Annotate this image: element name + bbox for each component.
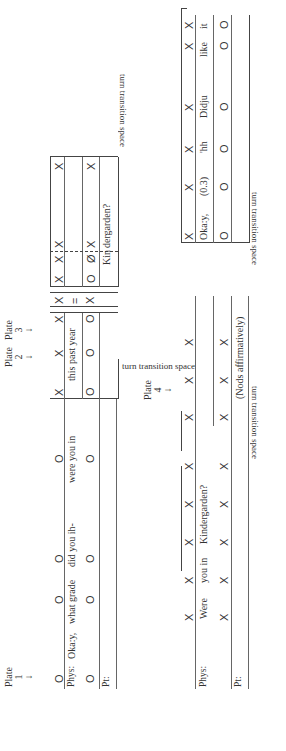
mark: O (85, 274, 97, 283)
speaker-phys: Phys: (66, 666, 76, 687)
bracket-right (50, 292, 118, 293)
bracket-left (50, 286, 118, 287)
mark: X (53, 241, 65, 248)
mark: X (218, 414, 230, 421)
mark: X (85, 241, 97, 248)
turn-transition-space-label: turn transition space (118, 74, 128, 147)
mark: O (218, 182, 230, 191)
utterance-word: Didju (198, 95, 209, 118)
line (64, 399, 65, 689)
utterance-word: Oka:y, (198, 214, 209, 240)
line (231, 296, 232, 426)
line (99, 157, 100, 287)
line (99, 355, 100, 399)
line (248, 296, 249, 426)
line (195, 421, 196, 689)
bracket-bottom (118, 157, 119, 287)
mark: O (84, 314, 96, 323)
utterance-word: Kindergarden? (198, 485, 209, 544)
bracket-left (50, 398, 118, 399)
utterance-word: you in (198, 558, 209, 583)
line (195, 296, 196, 426)
utterance-word: this past year (66, 328, 77, 381)
bracket-bottom (249, 15, 250, 243)
speaker-pt: Pt: (101, 676, 111, 687)
mark: X (218, 501, 230, 508)
mark: X (183, 577, 195, 584)
utterance-word: Were (198, 598, 209, 619)
bracket-right (50, 156, 118, 157)
line (99, 399, 100, 689)
mark: X (218, 614, 230, 621)
mark: O (84, 387, 96, 396)
equals-sign: = (69, 298, 81, 304)
mark: O (218, 231, 230, 240)
bracket-top (181, 466, 182, 571)
bracket-top (181, 411, 182, 451)
mark: X (183, 43, 195, 50)
utterance-word: Kin (101, 250, 112, 265)
line (99, 313, 100, 355)
bracket-left (50, 306, 118, 307)
line (82, 313, 83, 355)
mark: X (53, 163, 65, 170)
line (82, 157, 83, 287)
mark: X (183, 377, 195, 384)
bracket-top (50, 157, 51, 287)
mark: X (53, 256, 65, 263)
mark: X (183, 22, 195, 29)
mark: X (183, 233, 195, 240)
bracket-tick (181, 8, 187, 9)
mark: X (183, 104, 195, 111)
utterance-word: 'hh (198, 141, 209, 153)
line (213, 296, 214, 426)
utterance-word: (Nods affirmatively) (234, 317, 245, 399)
line (195, 15, 196, 243)
line (231, 421, 232, 689)
mark: X (85, 163, 97, 170)
mark: X (183, 501, 195, 508)
mark: O (84, 454, 96, 463)
line (116, 399, 117, 689)
utterance-word: what grade (66, 580, 77, 624)
utterance-word: Oka:y, (66, 633, 77, 659)
mark: O (218, 102, 230, 111)
line (248, 421, 249, 689)
plate-3-marker: Plate 3 ↓ (4, 320, 34, 340)
utterance-word: did you ih- (66, 523, 77, 567)
mark: X (183, 414, 195, 421)
speaker-pt: Pt: (233, 676, 243, 687)
mark: O (218, 41, 230, 50)
mark: X (218, 539, 230, 546)
plate-1-marker: Plate 1 ↓ (4, 667, 34, 687)
mark: X (183, 184, 195, 191)
mark: O (218, 144, 230, 153)
line (82, 355, 83, 399)
mark: X (183, 146, 195, 153)
mark: X (183, 614, 195, 621)
utterance-word: (0.3) (198, 177, 209, 196)
bracket-right (50, 312, 118, 313)
plate-2-marker: Plate 2 ↓ (4, 347, 34, 367)
mark: X (218, 463, 230, 470)
mark: X (218, 377, 230, 384)
utterance-word: were you in (66, 436, 77, 483)
line (64, 157, 65, 287)
mark: X (53, 297, 65, 304)
line (213, 15, 214, 243)
bracket-top (181, 8, 182, 243)
mark: X (53, 276, 65, 283)
turn-transition-space-label: turn transition space (250, 192, 260, 265)
mark: X (183, 463, 195, 470)
rotated-figure: Plate 1 ↓ Plate 2 ↓ Plate 3 ↓ O O O O Ph… (0, 0, 286, 751)
utterance-word: like (198, 42, 209, 57)
turn-transition-space-label: turn transition space (122, 361, 195, 371)
mark: O (84, 674, 96, 683)
bracket-left (181, 242, 249, 243)
mark: O (84, 595, 96, 604)
mark: X (84, 297, 96, 304)
speaker-phys: Phys: (198, 666, 208, 687)
mark: X (53, 389, 65, 396)
turn-transition-space-label: turn transition space (250, 386, 260, 459)
mark: X (183, 539, 195, 546)
